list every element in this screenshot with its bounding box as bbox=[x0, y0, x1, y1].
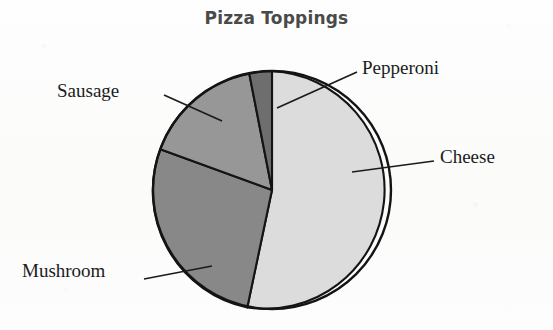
pie-label-sausage: Sausage bbox=[57, 80, 119, 102]
pie-label-pepperoni: Pepperoni bbox=[362, 57, 439, 79]
pie-label-cheese: Cheese bbox=[440, 146, 495, 168]
pie-label-mushroom: Mushroom bbox=[22, 260, 105, 282]
pie-chart-figure: Pizza Toppings Pepperoni Cheese Sausage … bbox=[0, 0, 553, 330]
